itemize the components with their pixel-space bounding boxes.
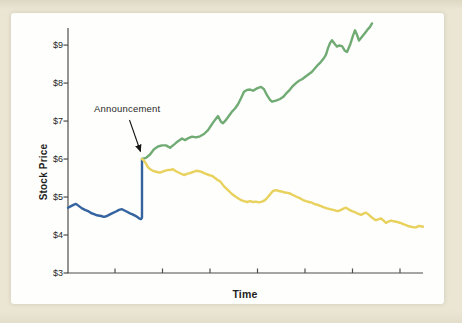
y-tick-label: $7 xyxy=(0,116,63,127)
x-axis-title: Time xyxy=(232,288,257,300)
announcement-arrow xyxy=(130,120,141,152)
axes xyxy=(64,28,424,273)
y-tick-label: $3 xyxy=(0,268,63,279)
y-tick-label: $8 xyxy=(0,78,63,89)
y-tick-label: $4 xyxy=(0,230,63,241)
y-tick-label: $6 xyxy=(0,154,63,165)
green-rising-line xyxy=(142,23,372,159)
price-lines xyxy=(68,23,423,227)
yellow-declining-line xyxy=(142,159,423,227)
announcement-label: Announcement xyxy=(94,103,160,114)
announcement-arrow-line xyxy=(130,120,141,152)
blue-pre-announcement-line xyxy=(68,159,142,219)
stock-price-chart xyxy=(0,0,462,323)
y-tick-label: $9 xyxy=(0,40,63,51)
y-tick-label: $5 xyxy=(0,192,63,203)
